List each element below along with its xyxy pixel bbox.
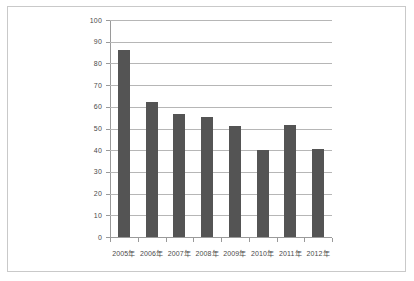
x-axis-tick-mark (138, 238, 139, 242)
y-axis-tick-label: 90 (72, 38, 102, 45)
x-axis-tick-mark (332, 238, 333, 242)
bar (312, 149, 324, 237)
x-axis-tick-label: 2012年 (298, 250, 338, 258)
y-axis-tick-label: 20 (72, 190, 102, 197)
bar-series (110, 20, 332, 237)
bar (257, 150, 269, 237)
y-axis-tick-label: 80 (72, 60, 102, 67)
y-axis-tick-label: 30 (72, 168, 102, 175)
bar (201, 117, 213, 237)
x-axis-tick-mark (304, 238, 305, 242)
y-axis-tick-label: 0 (72, 234, 102, 241)
bar (284, 125, 296, 237)
x-axis-tick-mark (277, 238, 278, 242)
y-axis-tick-label: 100 (72, 17, 102, 24)
x-axis-tick-mark (193, 238, 194, 242)
y-axis-tick-label: 10 (72, 212, 102, 219)
x-axis-tick-mark (221, 238, 222, 242)
bar-chart: 0102030405060708090100 2005年2006年2007年20… (0, 0, 414, 281)
y-axis-tick-label: 50 (72, 125, 102, 132)
y-axis-tick-label: 70 (72, 82, 102, 89)
bar (146, 102, 158, 237)
x-axis-tick-mark (110, 238, 111, 242)
bar (118, 50, 130, 237)
chart-page: 0102030405060708090100 2005年2006年2007年20… (0, 0, 414, 281)
bar (229, 126, 241, 237)
x-axis-tick-mark (249, 238, 250, 242)
x-axis-tick-mark (166, 238, 167, 242)
y-axis-tick-label: 40 (72, 147, 102, 154)
bar (173, 114, 185, 237)
y-axis-tick-label: 60 (72, 103, 102, 110)
